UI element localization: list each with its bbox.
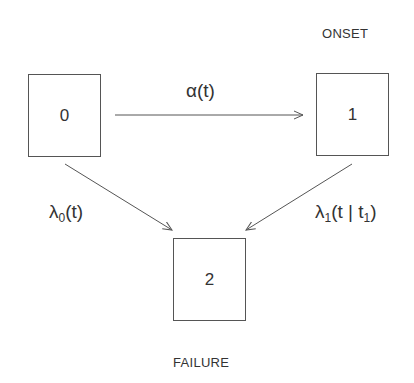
state-box-0: 0 <box>28 74 101 157</box>
state-id-1: 1 <box>348 105 357 125</box>
lambda0-symbol: λ <box>49 201 59 222</box>
state-box-2: 2 <box>173 238 246 321</box>
transition-label-lambda0: λ0(t) <box>49 201 83 225</box>
state-box-1: 1 <box>316 73 389 156</box>
transition-label-alpha: α(t) <box>186 80 215 102</box>
state-id-2: 2 <box>205 270 214 290</box>
state-label-failure: FAILURE <box>173 355 229 370</box>
state-label-onset: ONSET <box>322 26 368 41</box>
transition-label-lambda1: λ1(t | t1) <box>315 201 377 225</box>
state-id-0: 0 <box>60 106 69 126</box>
lambda1-symbol: λ <box>315 201 325 222</box>
lambda0-args: (t) <box>65 201 83 222</box>
alpha-args: (t) <box>197 80 215 101</box>
lambda1-args-post: ) <box>370 201 376 222</box>
alpha-symbol: α <box>186 80 197 101</box>
lambda1-args-pre: (t | t <box>331 201 363 222</box>
transition-arrows <box>0 0 414 383</box>
